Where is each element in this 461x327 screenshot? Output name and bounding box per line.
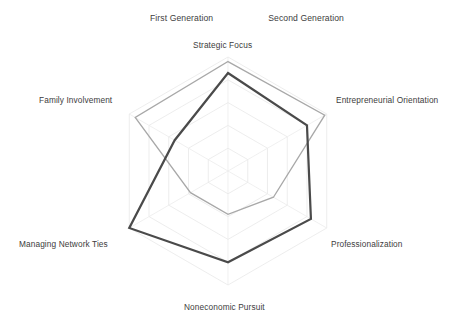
grid-spoke bbox=[228, 114, 327, 171]
axis-label-noneconomic-pursuit: Noneconomic Pursuit bbox=[184, 303, 265, 311]
axis-label-professionalization: Professionalization bbox=[331, 240, 403, 248]
axis-label-entrepreneurial-orientation: Entrepreneurial Orientation bbox=[336, 96, 438, 104]
series-polygon-first-generation bbox=[135, 62, 325, 215]
series-polygon-second-generation bbox=[129, 73, 311, 262]
grid-spoke bbox=[129, 114, 228, 171]
radar-chart: First Generation Second Generation Strat… bbox=[0, 0, 461, 327]
axis-label-strategic-focus: Strategic Focus bbox=[193, 41, 252, 49]
axis-label-family-involvement: Family Involvement bbox=[39, 96, 112, 104]
series-polygons bbox=[129, 62, 324, 263]
axis-label-managing-network-ties: Managing Network Ties bbox=[19, 240, 108, 248]
